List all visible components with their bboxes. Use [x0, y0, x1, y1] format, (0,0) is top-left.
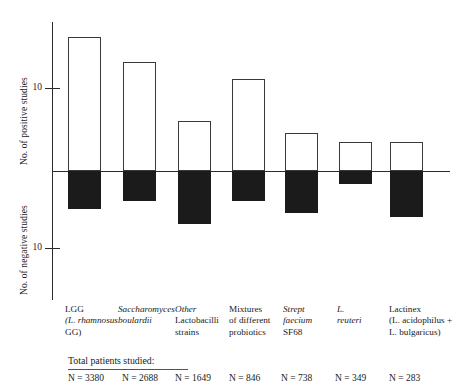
x-axis-label-line: L. bulgaricus)	[389, 327, 452, 338]
x-axis-label-line: boulardii	[118, 315, 175, 326]
x-axis-label-line: Lactinex	[389, 304, 452, 315]
patients-value: N = 738	[281, 372, 312, 384]
bar-positive	[339, 142, 372, 171]
probiotic-studies-figure: 10 10 No. of positive studies No. of neg…	[0, 0, 460, 392]
x-axis-label-line: reuteri	[337, 315, 362, 326]
x-axis-label: L.reuteri	[337, 304, 362, 327]
bar-positive	[232, 79, 265, 171]
x-axis-label-line: (L. acidophilus +	[389, 315, 452, 326]
y-tick-positive-10	[45, 88, 60, 89]
x-axis-label-line: Mixtures	[229, 304, 270, 315]
x-axis-category-labels: LGG(L. rhamnosusGG)Saccharomycesboulardi…	[0, 304, 460, 356]
x-axis-label-line: probiotics	[229, 327, 270, 338]
x-axis-label: LGG(L. rhamnosusGG)	[65, 304, 118, 338]
x-axis-label-line: GG)	[65, 327, 118, 338]
chart-plot-area: 10 10 No. of positive studies No. of neg…	[0, 0, 460, 300]
bar-positive	[178, 121, 211, 171]
bar-positive	[390, 142, 423, 171]
x-axis-label: Lactinex(L. acidophilus +L. bulgaricus)	[389, 304, 452, 338]
patients-footer-rule	[68, 369, 188, 370]
x-axis-label: StreptfaeciumSF68	[283, 304, 312, 338]
y-tick-negative-10	[45, 248, 60, 249]
bar-negative	[390, 171, 423, 217]
x-axis-label-line: Lactobacilli	[175, 315, 219, 326]
x-axis-label-line: Saccharomyces	[118, 304, 175, 315]
x-axis-label: Mixturesof differentprobiotics	[229, 304, 270, 338]
patients-value: N = 283	[389, 372, 420, 384]
x-axis-label: OtherLactobacillistrains	[175, 304, 219, 338]
x-axis-label-line: LGG	[65, 304, 118, 315]
x-axis-label-line: SF68	[283, 327, 312, 338]
bar-negative	[232, 171, 265, 201]
bar-positive	[68, 37, 101, 171]
y-axis-line	[52, 22, 53, 300]
patients-value: N = 2688	[122, 372, 158, 384]
x-axis-label-line: Strept	[283, 304, 312, 315]
bar-negative	[339, 171, 372, 184]
patients-footer: Total patients studied: N = 3380N = 2688…	[0, 355, 460, 392]
x-axis-label-line: strains	[175, 327, 219, 338]
bar-negative	[178, 171, 211, 224]
x-axis-label: Saccharomycesboulardii	[118, 304, 175, 327]
x-axis-label-line: of different	[229, 315, 270, 326]
x-axis-label-line: (L. rhamnosus	[65, 315, 118, 326]
bar-positive	[285, 133, 318, 171]
patients-value: N = 3380	[68, 372, 104, 384]
bar-negative	[123, 171, 156, 201]
x-axis-label-line: faecium	[283, 315, 312, 326]
patients-value: N = 1649	[175, 372, 211, 384]
patients-footer-title: Total patients studied:	[68, 355, 154, 367]
x-axis-label-line: Other	[175, 304, 219, 315]
bar-positive	[123, 62, 156, 171]
bar-negative	[285, 171, 318, 213]
y-axis-title-negative: No. of negative studies	[19, 205, 29, 295]
bar-negative	[68, 171, 101, 209]
y-axis-title-positive: No. of positive studies	[19, 77, 29, 165]
patients-value: N = 846	[229, 372, 260, 384]
x-axis-label-line: L.	[337, 304, 362, 315]
patients-value: N = 349	[335, 372, 366, 384]
